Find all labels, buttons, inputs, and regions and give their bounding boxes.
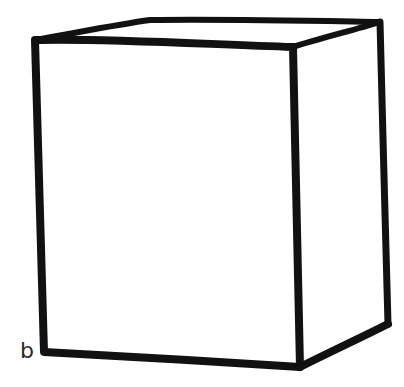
bottom-right-edge: [300, 324, 388, 367]
top-right-edge: [293, 22, 380, 47]
box-drawing: [0, 0, 404, 387]
right-back-vertical-edge: [380, 22, 388, 324]
front-face: [35, 40, 300, 367]
figure-canvas: [0, 0, 404, 387]
figure-label: b: [20, 340, 34, 362]
